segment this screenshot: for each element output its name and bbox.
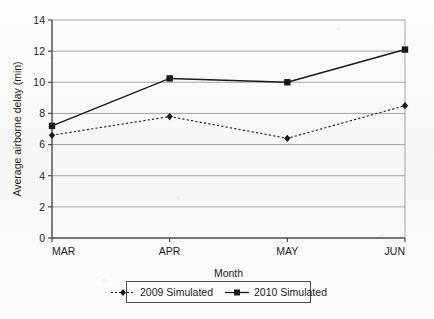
legend-entry-2010[interactable]: 2010 Simulated — [224, 287, 327, 298]
line-chart: 02468101214 MARAPRMAYJUN MonthAverage ai… — [0, 0, 434, 319]
y-tick-label: 4 — [39, 170, 45, 182]
y-tick-label: 14 — [33, 14, 45, 26]
data-point-square — [166, 75, 172, 81]
data-point-square — [284, 79, 290, 85]
figure-page: 02468101214 MARAPRMAYJUN MonthAverage ai… — [0, 0, 434, 319]
series-line-1 — [52, 106, 405, 139]
legend-label-2009: 2009 Simulated — [140, 287, 213, 298]
x-tick-label: MAR — [52, 245, 76, 257]
x-tick-label: MAY — [276, 245, 298, 257]
y-tick-label: 6 — [39, 138, 45, 150]
y-tick-label: 2 — [39, 201, 45, 213]
data-point-diamond — [402, 102, 408, 109]
data-series-layer — [49, 46, 408, 142]
legend-label-2010: 2010 Simulated — [254, 287, 327, 298]
diamond-marker-icon — [110, 288, 136, 297]
y-tick-label: 10 — [33, 76, 45, 88]
x-tick-label: JUN — [385, 245, 405, 257]
data-point-square — [402, 46, 408, 52]
data-point-diamond — [166, 113, 172, 120]
x-tick-label: APR — [159, 245, 181, 257]
y-axis-title: Average airborne delay (min) — [11, 61, 23, 196]
chart-legend: 2009 Simulated 2010 Simulated — [126, 281, 311, 303]
y-tick-label: 12 — [33, 45, 45, 57]
y-tick-label: 0 — [39, 232, 45, 244]
square-marker-icon — [224, 288, 250, 297]
y-tick-label: 8 — [39, 107, 45, 119]
series-line-2 — [52, 50, 405, 126]
axis-labels-layer: MonthAverage airborne delay (min) — [11, 61, 243, 279]
x-axis-ticks: MARAPRMAYJUN — [52, 238, 405, 257]
gridlines — [52, 20, 405, 207]
legend-entry-2009[interactable]: 2009 Simulated — [110, 287, 213, 298]
x-axis-title: Month — [214, 267, 243, 279]
data-point-diamond — [284, 135, 290, 142]
axis-lines — [52, 20, 405, 238]
data-point-diamond — [49, 132, 55, 139]
data-point-square — [49, 123, 55, 129]
plot-canvas: 02468101214 MARAPRMAYJUN MonthAverage ai… — [0, 0, 434, 319]
